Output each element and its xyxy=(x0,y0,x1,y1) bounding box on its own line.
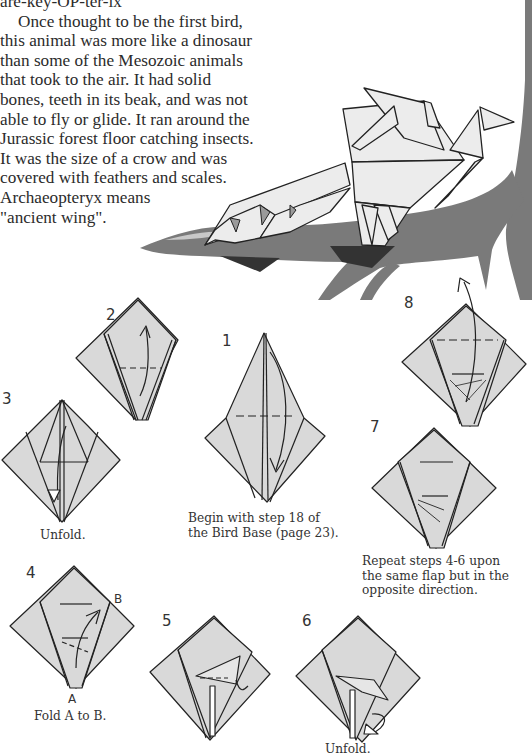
step-number: 2 xyxy=(106,306,116,324)
step-3-caption: Unfold. xyxy=(40,528,86,543)
step-number: 5 xyxy=(162,612,172,630)
step-5-diagram xyxy=(150,616,270,740)
step-number: 1 xyxy=(222,332,232,350)
step-6-caption: Unfold. xyxy=(325,742,371,754)
step-8-diagram xyxy=(402,278,526,426)
step-6-diagram xyxy=(296,616,420,742)
step-diagrams xyxy=(0,0,532,754)
step-3-diagram xyxy=(2,400,120,522)
caption-line: the Bird Base (page 23). xyxy=(188,526,339,541)
step-number: 7 xyxy=(370,418,380,436)
point-label-a: A xyxy=(68,692,76,706)
step-1-caption: Begin with step 18 of the Bird Base (pag… xyxy=(188,511,339,540)
caption-line: the same flap but in the xyxy=(362,569,509,584)
step-number: 8 xyxy=(404,294,414,312)
step-7-diagram xyxy=(372,428,496,548)
step-7-caption: Repeat steps 4-6 upon the same flap but … xyxy=(362,554,509,598)
step-1-diagram xyxy=(205,333,325,502)
caption-line: Repeat steps 4-6 upon xyxy=(362,554,509,569)
step-number: 3 xyxy=(2,390,12,408)
caption-line: opposite direction. xyxy=(362,583,509,598)
step-number: 6 xyxy=(302,612,312,630)
caption-line: Begin with step 18 of xyxy=(188,511,339,526)
step-4-caption: Fold A to B. xyxy=(34,709,106,724)
step-number: 4 xyxy=(26,564,36,582)
step-4-diagram xyxy=(10,566,134,688)
step-2-diagram xyxy=(76,298,178,420)
point-label-b: B xyxy=(114,592,122,606)
